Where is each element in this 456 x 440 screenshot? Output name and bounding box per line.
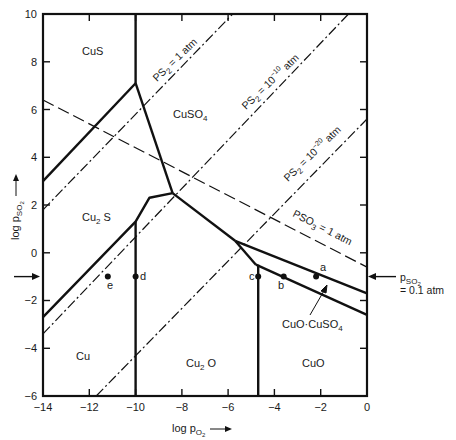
cu2s-cuso4-lower-boundary	[173, 193, 236, 241]
svg-text:= 0.1 atm: = 0.1 atm	[400, 284, 444, 296]
right-pso2-annotation: pSO2 = 0.1 atm	[368, 271, 444, 296]
svg-text:−4: −4	[268, 401, 281, 413]
svg-text:−6: −6	[222, 401, 235, 413]
svg-text:−12: −12	[80, 401, 99, 413]
svg-text:6: 6	[31, 104, 37, 116]
label-cuo: CuO	[302, 357, 325, 369]
svg-text:10: 10	[25, 8, 37, 20]
svg-text:−8: −8	[176, 401, 189, 413]
x-axis-title: log pO2	[172, 422, 232, 438]
label-ps2-1e-10: PS2 = 10−10 atm	[238, 50, 303, 113]
svg-text:−2: −2	[314, 401, 327, 413]
svg-text:a: a	[320, 261, 327, 273]
left-pso2-arrow	[14, 273, 40, 280]
cu2s-cuso4-boundary	[136, 83, 173, 193]
label-cu2o: Cu2 O	[186, 357, 217, 372]
svg-text:c: c	[249, 270, 255, 282]
y-tick-labels: −6 −4 −2 0 2 4 6 8 10	[24, 8, 37, 402]
ps2-1e-20-line	[96, 119, 367, 396]
label-ps2-1e-20: PS2 = 10−20 atm	[280, 122, 345, 185]
svg-text:4: 4	[31, 151, 37, 163]
y-ticks	[43, 62, 367, 349]
svg-text:2: 2	[31, 199, 37, 211]
label-cu2s: Cu2 S	[82, 211, 111, 226]
svg-text:−10: −10	[126, 401, 145, 413]
label-cuso4: CuSO4	[173, 108, 208, 123]
label-cu: Cu	[76, 350, 90, 362]
svg-text:log pO2: log pO2	[172, 422, 206, 438]
svg-text:−4: −4	[24, 342, 37, 354]
label-cus: CuS	[82, 45, 103, 57]
svg-text:e: e	[107, 279, 113, 291]
svg-text:0: 0	[31, 247, 37, 259]
svg-text:−14: −14	[34, 401, 53, 413]
label-cuo-cuso4: CuO·CuSO4	[282, 318, 343, 333]
cu2s-cus-boundary	[43, 83, 136, 181]
isobar-lines	[43, 14, 367, 396]
point-d	[133, 274, 139, 280]
plot-frame	[43, 14, 367, 396]
svg-text:−2: −2	[24, 294, 37, 306]
pso3-1atm-line	[43, 100, 367, 267]
y-axis-title: log pSO2	[9, 174, 25, 240]
predominance-diagram: −14 −12 −10 −8 −6 −4 −2 0 −6 −4 −2 0 2 4…	[0, 0, 456, 440]
label-ps2-1atm: PS2 = 1 atm	[150, 35, 201, 85]
svg-text:−6: −6	[24, 390, 37, 402]
svg-text:b: b	[278, 279, 284, 291]
svg-text:0: 0	[364, 401, 370, 413]
svg-text:8: 8	[31, 56, 37, 68]
region-labels: CuS CuSO4 Cu2 S Cu Cu2 O CuO CuO·CuSO4	[76, 45, 343, 372]
svg-text:log pSO2: log pSO2	[9, 201, 25, 240]
svg-text:d: d	[140, 270, 146, 282]
x-tick-labels: −14 −12 −10 −8 −6 −4 −2 0	[34, 401, 370, 413]
point-c	[255, 274, 261, 280]
point-a	[313, 274, 319, 280]
phase-boundaries	[43, 14, 367, 396]
ps2-1atm-line	[43, 14, 233, 210]
